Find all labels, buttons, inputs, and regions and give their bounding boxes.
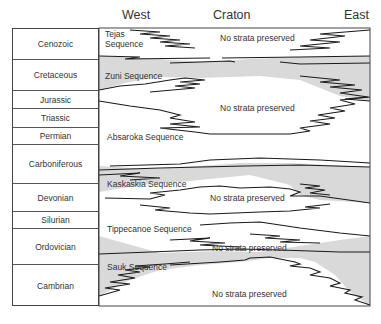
kaskaskia-label: Kaskaskia Sequence <box>107 179 187 189</box>
tejas-label-1: Tejas <box>105 29 125 39</box>
sauk-label: Sauk Sequence <box>107 262 167 272</box>
hiatus-label-devonian: No strata preserved <box>210 193 285 203</box>
tejas-label-2: Sequence <box>105 39 144 49</box>
absaroka-label: Absaroka Sequence <box>107 132 184 142</box>
hiatus-label-ordovician: No strata preserved <box>212 243 287 253</box>
hiatus-label-jurassic-triassic: No strata preserved <box>220 103 295 113</box>
zuni-label: Zuni Sequence <box>105 71 162 81</box>
tippecanoe-label: Tippecanoe Sequence <box>107 224 192 234</box>
hiatus-label-cambrian: No strata preserved <box>212 289 287 299</box>
sequence-stratigraphy-diagram: Tejas Sequence Zuni Sequence Absaroka Se… <box>0 0 381 324</box>
hiatus-label-cenozoic: No strata preserved <box>220 33 295 43</box>
